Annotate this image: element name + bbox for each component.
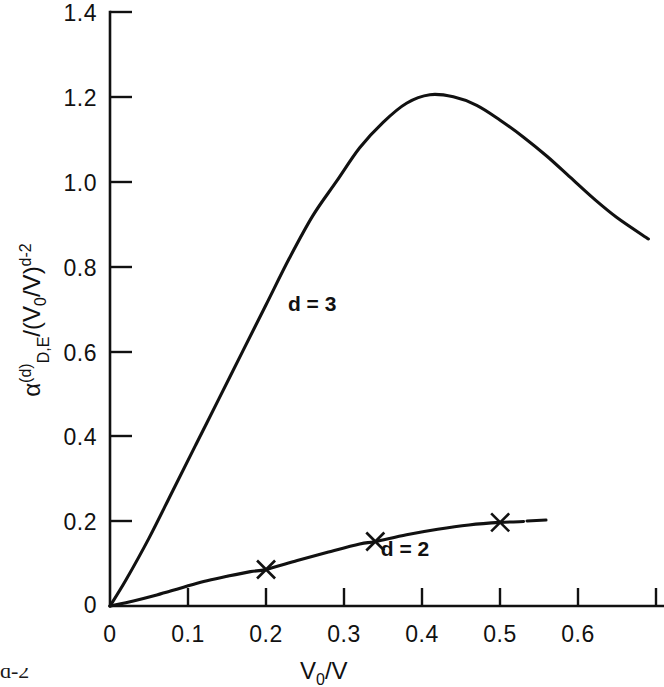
y-axis-title-divider: /( xyxy=(18,322,45,337)
y-tick-labels: 1.4 1.2 1.0 0.8 0.6 0.4 0.2 0 xyxy=(64,0,97,618)
y-axis-title-ratio-tail: V) xyxy=(18,266,45,290)
y-axis-title-superscript: (d) xyxy=(17,363,34,383)
y-axis-title-ratio-main: V xyxy=(18,306,45,322)
x-tick-label-0.5: 0.5 xyxy=(483,621,516,647)
y-axis-title-subscript: D,E xyxy=(35,337,52,364)
y-tick-label-1.2: 1.2 xyxy=(64,85,97,111)
x-axis-ticks xyxy=(188,588,656,606)
x-tick-label-0.2: 0.2 xyxy=(249,621,282,647)
y-tick-label-0.6: 0.6 xyxy=(64,340,97,366)
y-tick-label-0.2: 0.2 xyxy=(64,509,97,535)
x-tick-label-0.4: 0.4 xyxy=(405,621,438,647)
y-axis-title-exponent: d-2 xyxy=(17,243,34,266)
x-tick-label-0.1: 0.1 xyxy=(171,621,204,647)
y-axis-title: α(d)D,E/(V0/V)d-2 xyxy=(17,243,52,397)
axes-group xyxy=(110,12,664,606)
curve-d-equals-3 xyxy=(110,94,648,606)
y-axis-title-symbol: α xyxy=(18,383,45,397)
y-tick-label-0: 0 xyxy=(84,592,97,618)
y-tick-label-1.4: 1.4 xyxy=(64,0,97,26)
caption-fragment-text: d-2 xyxy=(0,668,29,683)
y-tick-label-1.0: 1.0 xyxy=(64,170,97,196)
y-axis-ticks xyxy=(110,12,132,521)
curve-label-d-equals-3: d = 3 xyxy=(288,292,336,315)
x-tick-label-0.3: 0.3 xyxy=(327,621,360,647)
chart-canvas: 1.4 1.2 1.0 0.8 0.6 0.4 0.2 0 0 0.1 0.2 … xyxy=(0,0,664,687)
caption-fragment: d-2 xyxy=(0,668,29,684)
x-tick-label-0: 0 xyxy=(103,621,116,647)
y-tick-label-0.8: 0.8 xyxy=(64,255,97,281)
caption-strip: d-2 xyxy=(0,668,664,687)
x-tick-label-0.6: 0.6 xyxy=(561,621,594,647)
curve-label-d-equals-2: d = 2 xyxy=(381,537,429,560)
x-tick-labels: 0 0.1 0.2 0.3 0.4 0.5 0.6 xyxy=(103,621,594,647)
curve-d-equals-2 xyxy=(110,522,524,606)
figure-panel: 1.4 1.2 1.0 0.8 0.6 0.4 0.2 0 0 0.1 0.2 … xyxy=(0,0,664,687)
curve-d-equals-2-tail xyxy=(527,520,546,521)
y-axis-title-ratio-sub: 0 xyxy=(32,297,49,306)
y-tick-label-0.4: 0.4 xyxy=(64,424,97,450)
svg-text:α(d)D,E/(V0/V)d-2: α(d)D,E/(V0/V)d-2 xyxy=(17,243,52,397)
